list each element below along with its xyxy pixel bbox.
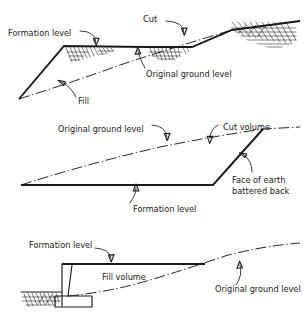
label-original-ground-level-middle: Original ground level [58,124,144,134]
label-original-ground-level-bottom: Original ground level [215,284,301,294]
label-cut-top: Cut [143,14,158,24]
formation-line-middle [21,129,263,185]
label-formation-level-top: Formation level [8,28,71,38]
earthworks-figure: Formation level Cut Original ground leve… [0,0,306,322]
label-fill-top: Fill [78,96,89,106]
arrowhead-fill-top [58,80,65,85]
panel-top: Formation level Cut Original ground leve… [8,14,300,106]
leader-cut-top [166,21,184,32]
label-formation-level-middle: Formation level [133,204,196,214]
hatch-left-ground-bottom [22,293,60,307]
label-cut-volume-middle: Cut volume [223,122,270,132]
leader-cut-volume-middle [210,125,218,136]
retaining-wall-stem [62,264,72,306]
label-original-ground-level-top: Original ground level [146,69,232,79]
label-face-of-earth-line2: battered back [232,186,289,196]
retaining-wall-footing [55,296,92,307]
label-fill-volume-bottom: Fill volume [102,272,146,282]
panel-bottom: Formation level Fill volume Original gro… [21,240,301,308]
figure-canvas: Formation level Cut Original ground leve… [0,0,306,322]
panel-middle: Original ground level Cut volume Face of… [21,122,300,214]
hatch-left-bench [66,47,114,62]
label-face-of-earth-line1: Face of earth [232,175,285,185]
label-formation-level-bottom: Formation level [29,240,92,250]
